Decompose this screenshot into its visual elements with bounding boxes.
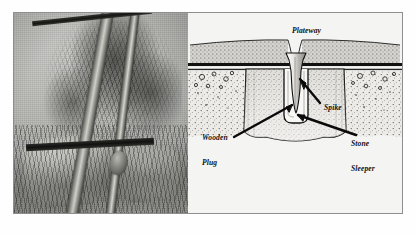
- label-wooden-plug-line2: Plug: [202, 159, 228, 167]
- label-plateway: Plateway: [276, 19, 321, 44]
- label-stone-sleeper-line1: Stone: [351, 140, 375, 148]
- label-plateway-text: Plateway: [292, 26, 321, 35]
- figure-root: Plateway Spike Wooden Plug Stone Sleeper: [0, 0, 416, 235]
- label-wooden-plug: Wooden Plug: [202, 117, 228, 184]
- label-stone-sleeper-line2: Sleeper: [351, 165, 375, 173]
- cross-section-diagram: Plateway Spike Wooden Plug Stone Sleeper: [188, 13, 402, 213]
- label-stone-sleeper: Stone Sleeper: [351, 123, 375, 190]
- figure-plate: Plateway Spike Wooden Plug Stone Sleeper: [13, 12, 403, 214]
- label-spike: Spike: [308, 96, 342, 121]
- label-spike-text: Spike: [324, 103, 342, 112]
- plateway-photograph: [14, 13, 188, 213]
- label-wooden-plug-line1: Wooden: [202, 134, 228, 142]
- photo-vignette: [14, 13, 188, 213]
